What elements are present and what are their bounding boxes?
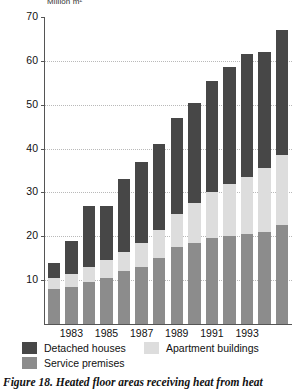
bar-1994 [258, 52, 270, 324]
bar-segment-apartment [48, 278, 60, 289]
bar-1982 [48, 263, 60, 324]
legend-item-service-premises: Service premises [22, 357, 144, 369]
legend-label-apartment: Apartment buildings [166, 342, 259, 354]
bar-segment-apartment [153, 230, 165, 259]
legend-label-detached: Detached houses [44, 342, 126, 354]
bar-1989 [171, 118, 183, 324]
bar-1988 [153, 144, 165, 324]
bar-segment-detached [223, 67, 235, 183]
bar-1995 [276, 30, 288, 324]
legend-item-detached-houses: Detached houses [22, 342, 144, 354]
y-axis-tick-label: 70 [0, 10, 38, 22]
bar-segment-detached [276, 30, 288, 155]
bar-segment-detached [65, 241, 77, 274]
legend-swatch-detached-icon [22, 342, 37, 354]
bar-segment-service [48, 289, 60, 324]
bar-segment-detached [135, 162, 147, 243]
bar-segment-detached [118, 179, 130, 251]
bar-1986 [118, 179, 130, 324]
bar-segment-apartment [83, 267, 95, 282]
bar-segment-service [153, 258, 165, 324]
bar-1983 [65, 241, 77, 324]
bar-segment-detached [171, 118, 183, 214]
bar-segment-detached [100, 206, 112, 261]
bar-1993 [241, 54, 253, 324]
figure-caption: Figure 18. Heated floor areas receiving … [3, 376, 292, 390]
bar-segment-apartment [100, 260, 112, 278]
bar-segment-apartment [223, 184, 235, 237]
bar-segment-service [258, 232, 270, 324]
x-axis-tick-label: 1985 [95, 327, 118, 339]
figure-18-chart: Million m² 10203040506070 19831985198719… [0, 0, 295, 391]
x-axis-tick-label: 1989 [165, 327, 188, 339]
bar-segment-apartment [188, 203, 200, 242]
bar-segment-apartment [65, 274, 77, 287]
bar-segment-apartment [258, 168, 270, 232]
bar-segment-service [171, 247, 183, 324]
bar-segment-detached [241, 54, 253, 177]
bar-segment-service [135, 267, 147, 324]
y-axis-tick-label: 40 [0, 142, 38, 154]
bar-segment-detached [153, 144, 165, 230]
bar-segment-apartment [118, 252, 130, 272]
bar-1990 [188, 103, 200, 324]
y-axis-tick-label: 10 [0, 273, 38, 285]
bar-segment-apartment [171, 214, 183, 247]
bar-segment-apartment [135, 243, 147, 267]
bar-segment-service [241, 234, 253, 324]
bar-1991 [206, 81, 218, 324]
bar-segment-service [100, 278, 112, 324]
y-axis-tick-label: 20 [0, 229, 38, 241]
x-axis-tick-label: 1993 [235, 327, 258, 339]
x-axis-tick-label: 1983 [60, 327, 83, 339]
bar-segment-service [83, 282, 95, 324]
bar-segment-apartment [206, 192, 218, 238]
bar-1984 [83, 206, 95, 324]
legend: Detached houses Apartment buildings Serv… [22, 340, 287, 370]
legend-label-service: Service premises [44, 357, 125, 369]
bar-segment-service [276, 225, 288, 324]
bar-segment-detached [83, 206, 95, 267]
y-axis-tick-label: 50 [0, 98, 38, 110]
x-axis-tick-label: 1987 [130, 327, 153, 339]
bar-series-group [45, 17, 291, 324]
bar-segment-service [223, 236, 235, 324]
y-axis-tick-label: 30 [0, 185, 38, 197]
bar-segment-detached [206, 81, 218, 193]
bar-1985 [100, 206, 112, 324]
bar-segment-detached [258, 52, 270, 168]
bar-segment-service [118, 271, 130, 324]
bar-segment-service [188, 243, 200, 324]
legend-row-2: Service premises [22, 355, 287, 370]
bar-1987 [135, 162, 147, 324]
legend-swatch-service-icon [22, 357, 37, 369]
y-axis-unit-label: Million m² [47, 0, 82, 6]
bar-segment-detached [48, 263, 60, 278]
y-axis-tick-label: 60 [0, 54, 38, 66]
legend-row-1: Detached houses Apartment buildings [22, 340, 287, 355]
x-axis-tick-label: 1991 [200, 327, 223, 339]
bar-segment-apartment [241, 177, 253, 234]
bar-segment-service [65, 287, 77, 324]
legend-swatch-apartment-icon [144, 342, 159, 354]
bar-segment-apartment [276, 155, 288, 225]
legend-item-apartment-buildings: Apartment buildings [144, 342, 259, 354]
bar-segment-service [206, 238, 218, 324]
bar-1992 [223, 67, 235, 324]
bar-segment-detached [188, 103, 200, 204]
